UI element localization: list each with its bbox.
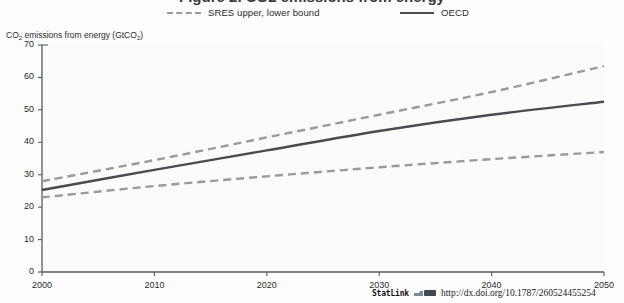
plot-background [42,45,604,272]
chart-svg [0,0,624,303]
y-axis-tick-label: 20 [6,201,34,211]
y-axis-tick-label: 30 [6,169,34,179]
y-axis-tick-label: 50 [6,104,34,114]
statlink-icon [414,289,436,297]
statlink-label: StatLink [372,289,409,298]
x-axis-tick-label: 2000 [19,280,65,290]
y-axis-tick-label: 60 [6,71,34,81]
statlink-footer: StatLink http://dx.doi.org/10.1787/26052… [372,288,596,298]
statlink-url[interactable]: http://dx.doi.org/10.1787/260524455254 [441,288,596,298]
x-axis-tick-label: 2010 [131,280,177,290]
y-axis-tick-label: 40 [6,136,34,146]
chart-axes [38,45,604,276]
y-axis-tick-label: 0 [6,266,34,276]
figure-container: Figure 2. CO2 emissions from energy SRES… [0,0,624,303]
y-axis-tick-label: 70 [6,39,34,49]
x-axis-tick-label: 2020 [244,280,290,290]
y-axis-tick-label: 10 [6,234,34,244]
plot-area: 010203040506070 200020102020203020402050 [0,0,624,303]
